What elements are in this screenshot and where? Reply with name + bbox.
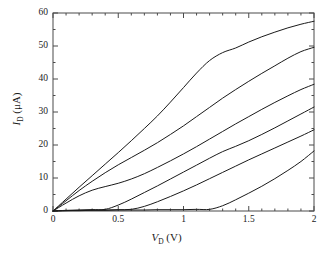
x-tick-label: 0.5	[106, 214, 130, 224]
y-axis-title-unit: (μA)	[10, 93, 22, 114]
y-tick-label: 50	[28, 40, 48, 50]
x-tick-label: 1	[172, 214, 196, 224]
y-tick-label: 30	[28, 106, 48, 116]
y-tick-label: 40	[28, 73, 48, 83]
x-tick-label: 2	[302, 214, 326, 224]
x-tick-label: 0	[41, 214, 65, 224]
y-tick-label: 0	[28, 205, 48, 215]
y-axis-title-wrapper: ID (μA)	[10, 69, 26, 149]
y-axis-title-unit-space	[10, 114, 22, 117]
x-tick-label: 1.5	[237, 214, 261, 224]
y-tick-label: 20	[28, 139, 48, 149]
x-axis-title-unit: (V)	[166, 231, 181, 243]
y-axis-title: ID (μA)	[10, 69, 25, 149]
y-tick-label: 60	[28, 7, 48, 17]
x-axis-title: VD (V)	[0, 231, 333, 246]
y-axis-title-symbol: I	[10, 122, 22, 126]
y-tick-label: 10	[28, 172, 48, 182]
y-axis-title-subscript: D	[16, 116, 25, 121]
